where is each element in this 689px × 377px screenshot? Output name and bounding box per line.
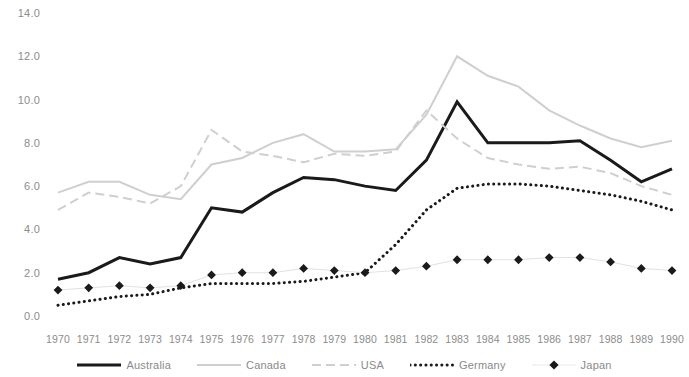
series-marker-japan (422, 262, 431, 271)
series-marker-japan (391, 266, 400, 275)
series-marker-japan (330, 266, 339, 275)
diamond-marker-icon (532, 359, 576, 371)
series-marker-japan (269, 268, 278, 277)
plot-area (0, 0, 689, 377)
x-axis-tick-label: 1982 (415, 333, 439, 345)
chart-legend: AustraliaCanadaUSAGermanyJapan (0, 354, 689, 376)
x-axis-tick-label: 1980 (353, 333, 377, 345)
series-marker-japan (238, 268, 247, 277)
x-axis-tick-label: 1990 (660, 333, 684, 345)
series-marker-japan (299, 264, 308, 273)
series-marker-japan (668, 266, 677, 275)
x-axis-tick-label: 1974 (169, 333, 193, 345)
legend-item-usa[interactable]: USA (312, 359, 384, 371)
series-lines (58, 56, 672, 305)
x-axis-tick-label: 1988 (599, 333, 623, 345)
legend-label: Australia (126, 359, 171, 371)
x-axis-tick-label: 1986 (537, 333, 561, 345)
x-axis-tick-label: 1975 (200, 333, 224, 345)
x-axis-tick-label: 1978 (292, 333, 316, 345)
series-marker-japan (514, 255, 523, 264)
series-marker-japan (576, 253, 585, 262)
series-marker-japan (453, 255, 462, 264)
dotted-line-icon (410, 359, 454, 371)
legend-item-australia[interactable]: Australia (77, 359, 171, 371)
series-marker-japan (146, 283, 155, 292)
x-axis-tick-label: 1979 (322, 333, 346, 345)
x-axis-tick-label: 1981 (384, 333, 408, 345)
x-axis-tick-label: 1987 (568, 333, 592, 345)
series-marker-japan (606, 257, 615, 266)
series-line-australia (58, 102, 672, 279)
series-marker-japan (207, 270, 216, 279)
x-axis-tick-label: 1970 (46, 333, 70, 345)
legend-label: Canada (246, 359, 286, 371)
legend-item-germany[interactable]: Germany (410, 359, 506, 371)
x-axis-tick-label: 1971 (77, 333, 101, 345)
x-axis-tick-label: 1972 (108, 333, 132, 345)
legend-label: Germany (459, 359, 506, 371)
x-axis-tick-label: 1985 (507, 333, 531, 345)
legend-item-japan[interactable]: Japan (532, 359, 612, 371)
legend-label: USA (361, 359, 384, 371)
legend-item-canada[interactable]: Canada (197, 359, 286, 371)
series-markers (54, 253, 677, 294)
legend-label: Japan (581, 359, 612, 371)
series-marker-japan (545, 253, 554, 262)
x-axis-tick-label: 1976 (230, 333, 254, 345)
x-axis-tick-label: 1977 (261, 333, 285, 345)
line-chart: 0.02.04.06.08.010.012.014.0 197019711972… (0, 0, 689, 377)
x-axis: 1970197119721973197419751976197719781979… (0, 333, 689, 353)
series-marker-japan (84, 283, 93, 292)
x-axis-tick-label: 1989 (629, 333, 653, 345)
series-line-canada (58, 56, 672, 199)
dashed-line-icon (312, 359, 356, 371)
series-marker-japan (637, 264, 646, 273)
solid-thick-line-icon (77, 359, 121, 371)
x-axis-tick-label: 1983 (445, 333, 469, 345)
x-axis-tick-label: 1984 (476, 333, 500, 345)
series-marker-japan (54, 286, 63, 295)
x-axis-tick-label: 1973 (138, 333, 162, 345)
series-marker-japan (483, 255, 492, 264)
solid-light-line-icon (197, 359, 241, 371)
series-marker-japan (115, 281, 124, 290)
